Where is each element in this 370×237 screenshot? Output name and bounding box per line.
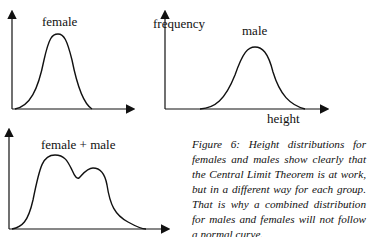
frequency-label: frequency: [153, 16, 205, 32]
combined-label: female + male: [41, 137, 115, 153]
figure-caption: Figure 6: Height distributions for femal…: [192, 137, 366, 237]
height-label: height: [267, 111, 300, 127]
male-label: male: [242, 23, 267, 39]
female-label: female: [42, 14, 77, 30]
